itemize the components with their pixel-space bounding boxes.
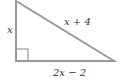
triangle-outline	[16, 1, 114, 61]
horizontal-leg-label: 2x − 2	[52, 67, 86, 78]
vertical-leg-label: x	[7, 24, 13, 35]
right-triangle-diagram: x x + 4 2x − 2	[0, 0, 122, 82]
right-angle-marker	[16, 49, 28, 61]
hypotenuse-label: x + 4	[64, 16, 91, 27]
